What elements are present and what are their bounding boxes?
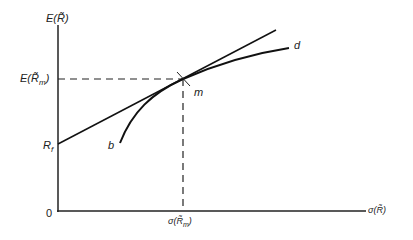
e-rm-label: E(R̃m) bbox=[20, 73, 49, 87]
efficient-frontier-curve bbox=[120, 48, 289, 143]
cml-diagram bbox=[0, 0, 413, 240]
point-m-label: m bbox=[194, 87, 203, 98]
sigma-rm-label-close: ) bbox=[189, 216, 192, 226]
origin-label: 0 bbox=[46, 208, 52, 219]
rf-label: Rf bbox=[43, 140, 53, 154]
e-rm-label-close: ) bbox=[46, 72, 50, 84]
sigma-rm-label: σ(R̃m) bbox=[168, 217, 192, 228]
e-rm-label-main: E(R̃ bbox=[20, 72, 39, 84]
y-axis-label: E(R̃) bbox=[46, 13, 69, 24]
point-d-label: d bbox=[294, 40, 300, 51]
e-rm-label-sub: m bbox=[39, 78, 46, 87]
x-axis-label: σ(R̃) bbox=[368, 206, 386, 215]
sigma-rm-label-main: σ(R̃ bbox=[168, 216, 183, 226]
rf-label-sub: f bbox=[51, 145, 53, 154]
point-b-label: b bbox=[108, 140, 114, 151]
rf-label-main: R bbox=[43, 139, 51, 151]
